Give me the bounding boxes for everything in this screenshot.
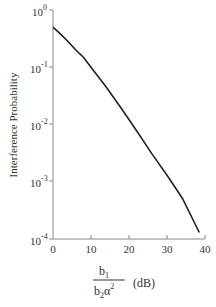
- svg-text:b1: b1: [99, 264, 109, 280]
- svg-text:20: 20: [124, 243, 136, 255]
- x-tick-labels: 0 10 20 30 40: [50, 243, 211, 255]
- svg-text:10-1: 10-1: [30, 60, 48, 75]
- y-axis-label: Interference Probability: [7, 72, 19, 177]
- svg-text:10-2: 10-2: [30, 117, 48, 132]
- svg-text:b2α2: b2α2: [94, 282, 114, 300]
- data-line: [53, 27, 199, 232]
- svg-text:10-3: 10-3: [30, 174, 48, 189]
- svg-text:30: 30: [162, 243, 174, 255]
- svg-text:0: 0: [50, 243, 56, 255]
- x-axis-label: b1 b2α2 (dB): [93, 264, 155, 300]
- svg-text:10: 10: [86, 243, 98, 255]
- svg-text:10-4: 10-4: [30, 232, 48, 247]
- axes: [49, 10, 205, 239]
- y-tick-labels: 100 10-1 10-2 10-3 10-4: [30, 3, 48, 247]
- svg-text:100: 100: [32, 3, 47, 18]
- svg-text:(dB): (dB): [133, 276, 155, 290]
- chart: 100 10-1 10-2 10-3 10-4 0 10 20 30 40 In…: [0, 0, 216, 307]
- svg-text:40: 40: [200, 243, 212, 255]
